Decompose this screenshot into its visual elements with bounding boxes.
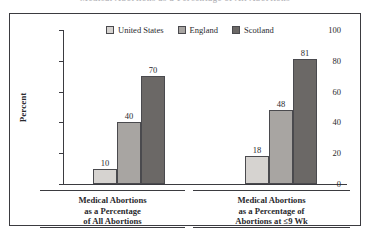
y-tick-label-40: 40: [333, 117, 342, 127]
category-label-0-line-0: Medical Abortions: [40, 195, 185, 206]
bar-0-0: [93, 169, 117, 184]
bar-0-1: [117, 122, 141, 184]
bar-0-2: [141, 76, 165, 184]
y-tick-label-100: 100: [328, 25, 341, 35]
x-axis-line: [63, 184, 347, 185]
category-label-1-line-0: Medical Abortions: [193, 195, 350, 206]
y-tick-mark-60: [59, 92, 63, 93]
bar-1-1: [269, 110, 293, 184]
y-tick-label-60: 60: [333, 87, 342, 97]
bar-value-label-1-2: 81: [301, 48, 310, 58]
y-tick-mark-0: [59, 184, 63, 185]
y-tick-mark-100: [59, 30, 63, 31]
bar-value-label-0-0: 10: [101, 158, 110, 168]
category-label-1-line-1: as a Percentage of: [193, 206, 350, 217]
y-tick-label-80: 80: [333, 56, 342, 66]
category-label-1: Medical Abortions as a Percentage of Abo…: [193, 190, 350, 228]
figure-frame: United States England Scotland Percent 0…: [9, 13, 361, 226]
bar-1-0: [245, 156, 269, 184]
y-tick-label-20: 20: [333, 148, 342, 158]
y-axis-line: [63, 30, 64, 185]
bar-1-2: [293, 59, 317, 184]
y-tick-label-0: 0: [337, 179, 341, 189]
figure-title: Medical Abortions as a Percentage of All…: [0, 0, 370, 3]
bar-value-label-0-1: 40: [125, 111, 134, 121]
plot-area: 020406080100 104070184881: [63, 30, 347, 185]
y-tick-mark-20: [59, 153, 63, 154]
bar-value-label-0-2: 70: [149, 65, 158, 75]
figure-title-strip: Medical Abortions as a Percentage of All…: [0, 0, 370, 9]
category-label-0-line-2: of All Abortions: [40, 216, 185, 227]
category-label-0: Medical Abortions as a Percentage of All…: [40, 190, 185, 228]
y-axis-title: Percent: [18, 30, 30, 185]
y-tick-mark-80: [59, 61, 63, 62]
y-tick-mark-40: [59, 122, 63, 123]
category-label-1-line-2: Abortions at ≤9 Wk: [193, 216, 350, 227]
category-label-0-line-1: as a Percentage: [40, 206, 185, 217]
bar-value-label-1-0: 18: [253, 145, 262, 155]
bar-value-label-1-1: 48: [277, 99, 286, 109]
